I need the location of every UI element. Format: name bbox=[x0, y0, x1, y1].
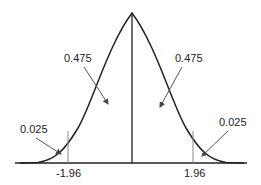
diagram-canvas bbox=[0, 0, 261, 185]
normal-distribution-diagram: 0.475 0.475 0.025 0.025 -1.96 1.96 bbox=[0, 0, 261, 185]
label-left-tail-area: 0.025 bbox=[20, 124, 48, 135]
tick-label-right: 1.96 bbox=[184, 168, 205, 179]
arrow-left-center bbox=[84, 67, 108, 104]
arrow-right-tail bbox=[202, 131, 228, 156]
arrow-left-tail bbox=[36, 138, 61, 154]
label-right-center-area: 0.475 bbox=[175, 53, 203, 64]
label-right-tail-area: 0.025 bbox=[219, 117, 247, 128]
label-left-center-area: 0.475 bbox=[64, 53, 92, 64]
tick-label-left: -1.96 bbox=[56, 168, 81, 179]
